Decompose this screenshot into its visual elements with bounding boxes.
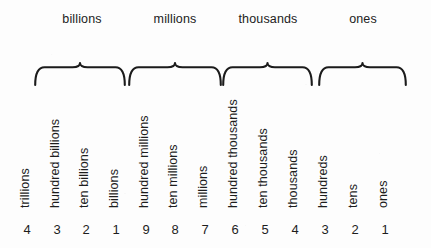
digit-hundred-billions: 3 [53, 222, 60, 237]
scan-texture-overlay [0, 0, 431, 248]
digit-ones: 1 [381, 222, 388, 237]
column-label-hundred-millions: hundred millions [138, 115, 151, 208]
column-label-ten-millions: ten millions [167, 144, 180, 208]
digit-hundred-thousands: 6 [231, 222, 238, 237]
group-label-billions: billions [62, 12, 101, 26]
brace-billions [34, 62, 126, 86]
column-label-trillions: trillions [19, 168, 32, 208]
brace-thousands [222, 62, 313, 86]
place-value-chart: billions millions thousands ones trillio… [0, 0, 431, 248]
group-label-millions: millions [154, 12, 197, 26]
column-label-millions: millions [197, 166, 210, 208]
digit-millions: 7 [201, 222, 208, 237]
group-label-thousands: thousands [238, 12, 297, 26]
digit-ten-millions: 8 [171, 222, 178, 237]
digit-trillions: 4 [23, 222, 30, 237]
digit-ten-billions: 2 [82, 222, 89, 237]
column-label-hundred-thousands: hundred thousands [227, 99, 240, 208]
digit-hundreds: 3 [321, 222, 328, 237]
digit-ten-thousands: 5 [261, 222, 268, 237]
digit-billions: 1 [112, 222, 119, 237]
column-label-billions: billions [108, 169, 121, 208]
column-label-ten-thousands: ten thousands [257, 128, 270, 208]
brace-millions [128, 62, 222, 86]
digit-thousands: 4 [291, 222, 298, 237]
column-label-hundred-billions: hundred billions [49, 119, 62, 208]
group-label-ones: ones [349, 12, 377, 26]
column-label-tens: tens [347, 184, 360, 208]
column-label-ten-billions: ten billions [78, 148, 91, 208]
column-label-ones: ones [377, 180, 390, 208]
digit-tens: 2 [351, 222, 358, 237]
column-label-thousands: thousands [287, 149, 300, 208]
brace-ones [318, 62, 407, 86]
column-label-hundreds: hundreds [317, 155, 330, 208]
digit-hundred-millions: 9 [142, 222, 149, 237]
